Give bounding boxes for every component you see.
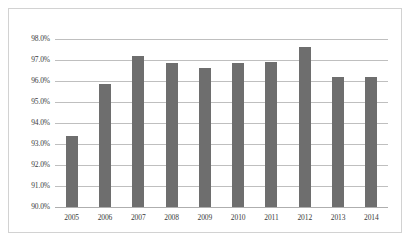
- chart-plot-wrapper: 98.0%97.0%96.0%95.0%94.0%93.0%92.0%91.0%…: [9, 9, 401, 232]
- bar-slot: 2010: [222, 39, 255, 207]
- x-axis-tick-label: 2005: [64, 214, 79, 222]
- bar-slot: 2011: [255, 39, 288, 207]
- x-axis-tick-label: 2010: [231, 214, 246, 222]
- gridline-900: 90.0%: [55, 207, 388, 208]
- bar-slot: 2005: [55, 39, 88, 207]
- bar-2009[interactable]: [199, 68, 211, 207]
- bar-slot: 2006: [88, 39, 121, 207]
- bar-slot: 2014: [355, 39, 388, 207]
- bar-2010[interactable]: [232, 63, 244, 207]
- x-axis-tick-label: 2009: [198, 214, 213, 222]
- y-axis-tick-label: 94.0%: [31, 119, 50, 127]
- y-axis-tick-label: 92.0%: [31, 161, 50, 169]
- bar-2005[interactable]: [66, 136, 78, 207]
- y-axis-tick-label: 98.0%: [31, 35, 50, 43]
- bar-slot: 2012: [288, 39, 321, 207]
- y-axis-tick-label: 95.0%: [31, 98, 50, 106]
- bar-slot: 2007: [122, 39, 155, 207]
- x-axis-tick-label: 2011: [264, 214, 278, 222]
- x-axis-tick-label: 2014: [364, 214, 379, 222]
- y-axis-tick-label: 91.0%: [31, 182, 50, 190]
- x-axis-tick-label: 2013: [331, 214, 346, 222]
- bar-slot: 2008: [155, 39, 188, 207]
- plot-area: 98.0%97.0%96.0%95.0%94.0%93.0%92.0%91.0%…: [55, 39, 388, 207]
- bars-layer: 2005200620072008200920102011201220132014: [55, 39, 388, 207]
- y-axis-tick-label: 93.0%: [31, 140, 50, 148]
- chart-frame: 98.0%97.0%96.0%95.0%94.0%93.0%92.0%91.0%…: [8, 8, 402, 233]
- y-axis-tick-label: 90.0%: [31, 203, 50, 211]
- bar-2007[interactable]: [132, 56, 144, 207]
- bar-2014[interactable]: [365, 77, 377, 207]
- y-axis-tick-label: 97.0%: [31, 56, 50, 64]
- x-axis-tick-label: 2006: [98, 214, 113, 222]
- bar-2008[interactable]: [166, 63, 178, 207]
- bar-2006[interactable]: [99, 84, 111, 207]
- x-axis-tick-label: 2008: [164, 214, 179, 222]
- y-axis-tick-label: 96.0%: [31, 77, 50, 85]
- bar-2012[interactable]: [299, 47, 311, 207]
- bar-slot: 2009: [188, 39, 221, 207]
- bar-slot: 2013: [321, 39, 354, 207]
- x-axis-tick-label: 2012: [297, 214, 312, 222]
- x-axis-tick-label: 2007: [131, 214, 146, 222]
- bar-2013[interactable]: [332, 77, 344, 207]
- bar-2011[interactable]: [265, 62, 277, 207]
